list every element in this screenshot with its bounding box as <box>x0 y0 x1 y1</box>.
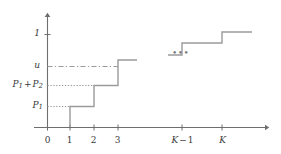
x-tick-label-k-minus-1-operator: − <box>178 135 188 145</box>
x-tick-label-0: 0 <box>38 136 57 145</box>
x-tick-label-3: 3 <box>108 136 127 145</box>
y-label-p1-plus-p2: P1+P2 <box>0 80 43 90</box>
y-label-one: 1 <box>12 29 40 38</box>
x-tick-label-k-minus-1: K−1 <box>164 136 201 145</box>
x-tick-label-k-minus-1-one: 1 <box>188 135 194 145</box>
ellipsis-annotation: ••• <box>172 49 189 58</box>
plot-area <box>0 0 281 154</box>
y-label-p1-plus-p2-sub-second: 2 <box>39 82 43 90</box>
x-tick-label-2: 2 <box>84 136 103 145</box>
y-label-p1-sub: 1 <box>39 103 43 111</box>
step-function-figure: ••• 1 u P1+P2 P1 0 1 2 3 K−1 K <box>0 0 281 154</box>
y-label-p1: P1 <box>14 101 43 111</box>
y-label-u: u <box>12 61 40 70</box>
x-tick-label-k: K <box>213 136 232 145</box>
step-curve-main <box>70 60 137 127</box>
x-tick-label-1: 1 <box>60 136 79 145</box>
